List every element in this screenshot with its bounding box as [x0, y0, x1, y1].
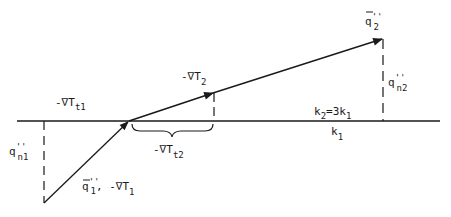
qn1-label: q''n1	[9, 142, 28, 162]
grad-t2-brace	[132, 124, 213, 137]
grad-t1-label: -∇Tt1	[55, 96, 86, 112]
grad-2-label: -∇T2	[181, 70, 206, 87]
svg-text:q''2: q''2	[365, 12, 382, 32]
q2-label: q''2	[365, 12, 382, 32]
q2-vector	[213, 39, 382, 93]
qn2-label: q''n2	[388, 73, 407, 93]
grad-t2-vector	[129, 93, 213, 121]
k1-label: k1	[331, 125, 343, 142]
k2-equals-3k1-label: k2=3k1	[314, 105, 351, 121]
svg-text:q''1, -∇T1: q''1, -∇T1	[82, 177, 134, 197]
grad-t2-label: -∇Tt2	[153, 143, 184, 160]
heat-flux-refraction-diagram: -∇Tt1 -∇T2 -∇Tt2 q''2 q''n2 q''n1 q''1, …	[0, 0, 451, 217]
q1-label: q''1, -∇T1	[82, 177, 134, 197]
